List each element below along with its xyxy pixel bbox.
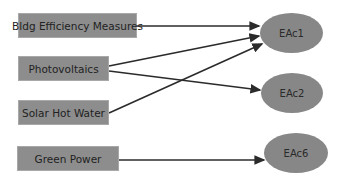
target-eac6: EAc6 — [264, 133, 328, 173]
source-bldg-efficiency: Bldg Efficiency Measures — [18, 13, 137, 38]
target-eac1: EAc1 — [260, 13, 323, 53]
source-label: Solar Hot Water — [22, 107, 105, 119]
source-label: Photovoltaics — [28, 63, 98, 75]
source-label: Green Power — [35, 153, 102, 165]
target-label: EAc1 — [279, 28, 304, 39]
arrow-pv-to-eac2 — [109, 71, 260, 90]
target-label: EAc2 — [280, 88, 305, 99]
source-solar-hot-water: Solar Hot Water — [18, 100, 109, 125]
source-photovoltaics: Photovoltaics — [18, 56, 109, 81]
target-eac2: EAc2 — [261, 73, 323, 113]
target-label: EAc6 — [284, 148, 309, 159]
arrow-shw-to-eac1 — [109, 44, 262, 113]
source-green-power: Green Power — [17, 146, 119, 171]
source-label: Bldg Efficiency Measures — [12, 20, 143, 32]
arrow-pv-to-eac1 — [109, 36, 259, 66]
